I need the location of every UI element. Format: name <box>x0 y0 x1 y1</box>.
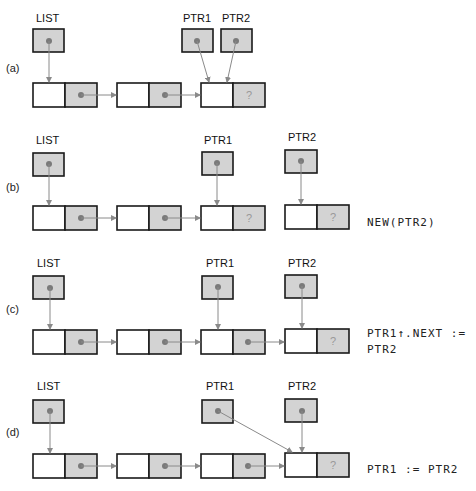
panel-label: (a) <box>6 62 19 74</box>
linked-list-diagram: (a) LIST PTR1 PTR2 ? <box>0 0 476 491</box>
unknown-mark: ? <box>330 459 336 471</box>
ptr2-pointer-box <box>221 29 252 52</box>
list-node-3: ? <box>201 83 265 107</box>
panel-label: (d) <box>6 426 19 438</box>
list-node-4: ? <box>285 453 349 477</box>
panel-label: (c) <box>6 303 19 315</box>
list-label: LIST <box>37 257 61 269</box>
unknown-mark: ? <box>246 212 252 224</box>
unknown-mark: ? <box>246 89 252 101</box>
panel-a: (a) LIST PTR1 PTR2 ? <box>6 12 265 107</box>
list-label: LIST <box>36 134 60 146</box>
statement-text: NEW(PTR2) <box>367 216 436 229</box>
ptr2-pointer-box <box>285 275 317 298</box>
unknown-mark: ? <box>330 211 336 223</box>
ptr2-label: PTR2 <box>288 380 316 392</box>
new-node: ? <box>285 205 349 229</box>
panel-c: (c) LIST PTR1 PTR2 <box>6 257 466 356</box>
ptr2-label: PTR2 <box>288 131 316 143</box>
list-pointer-box <box>33 276 64 299</box>
ptr1-label: PTR1 <box>206 257 234 269</box>
unknown-mark: ? <box>330 335 336 347</box>
list-node-3: ? <box>201 206 265 230</box>
list-label: LIST <box>36 12 60 24</box>
ptr2-label: PTR2 <box>222 12 250 24</box>
statement-line-1: PTR1↑.NEXT := <box>367 327 466 340</box>
ptr1-label: PTR1 <box>183 12 211 24</box>
panel-d: (d) LIST PTR1 PTR2 <box>6 380 458 478</box>
ptr1-pointer-box <box>182 29 213 52</box>
ptr1-pointer-box <box>202 400 233 423</box>
ptr1-label: PTR1 <box>204 134 232 146</box>
ptr1-label: PTR1 <box>206 380 234 392</box>
list-node-4: ? <box>285 329 349 353</box>
panel-b: (b) LIST PTR1 PTR2 ? <box>6 131 436 230</box>
statement-text: PTR1 := PTR2 <box>367 463 458 476</box>
list-pointer-box <box>33 400 64 423</box>
ptr2-label: PTR2 <box>288 257 316 269</box>
panel-label: (b) <box>6 181 19 193</box>
statement-line-2: PTR2 <box>367 343 398 356</box>
list-label: LIST <box>37 380 61 392</box>
ptr2-pointer-box <box>285 399 317 422</box>
